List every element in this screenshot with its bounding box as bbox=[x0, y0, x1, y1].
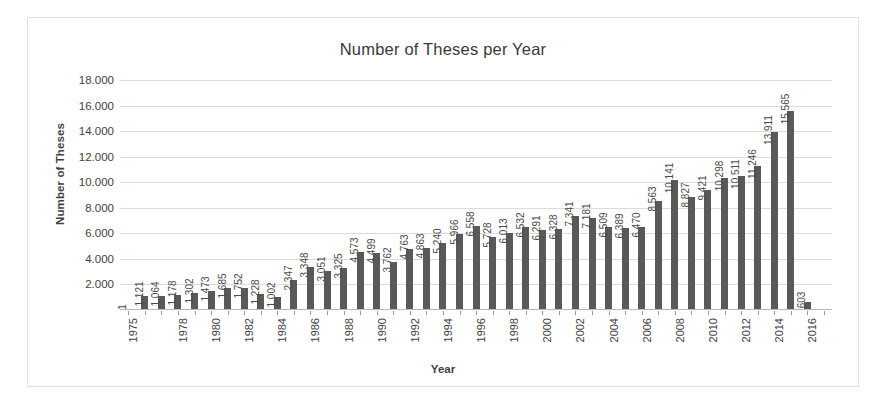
x-tick-slot bbox=[219, 311, 236, 357]
bar-value-label: 603 bbox=[797, 292, 807, 309]
bar[interactable]: 4.863 bbox=[423, 248, 430, 310]
chart-container: Number of Theses per Year Number of Thes… bbox=[27, 17, 859, 387]
bar[interactable]: 1.121 bbox=[141, 296, 148, 310]
bar-slot: 1.064 bbox=[153, 80, 170, 310]
bar-value-label: 1.228 bbox=[251, 280, 261, 305]
x-tick-mark bbox=[542, 311, 543, 315]
x-axis-title: Year bbox=[28, 363, 858, 375]
bar[interactable]: 6.291 bbox=[539, 230, 546, 310]
bar-value-label: 3.051 bbox=[317, 257, 327, 282]
x-tick-slot bbox=[551, 311, 568, 357]
bar-value-label: 1.473 bbox=[201, 277, 211, 302]
x-tick-mark bbox=[228, 311, 229, 315]
x-tick-mark bbox=[741, 311, 742, 315]
bar-value-label: 6.328 bbox=[549, 215, 559, 240]
bar-value-label: 6.013 bbox=[499, 219, 509, 244]
bar-slot: 6.328 bbox=[551, 80, 568, 310]
x-tick-mark bbox=[625, 311, 626, 315]
bar[interactable]: 3.325 bbox=[340, 268, 347, 310]
bar[interactable]: 3.348 bbox=[307, 267, 314, 310]
bar[interactable]: 1.064 bbox=[158, 296, 165, 310]
x-tick-slot bbox=[186, 311, 203, 357]
bar[interactable]: 4.763 bbox=[406, 249, 413, 310]
bar-slot: 10.298 bbox=[716, 80, 733, 310]
bar-slot: 3.325 bbox=[335, 80, 352, 310]
bar-slot: 15.565 bbox=[783, 80, 800, 310]
bar[interactable]: 6.558 bbox=[473, 226, 480, 310]
x-tick-mark bbox=[277, 311, 278, 315]
x-tick-mark bbox=[443, 311, 444, 315]
bar[interactable]: 10.141 bbox=[671, 180, 678, 310]
bar[interactable]: 1.178 bbox=[174, 295, 181, 310]
x-tick-mark bbox=[559, 311, 560, 315]
bar-value-label: 10.141 bbox=[665, 163, 675, 194]
x-tick-slot: 1975 bbox=[120, 311, 137, 357]
bar[interactable]: 1.228 bbox=[257, 294, 264, 310]
bar[interactable]: 2.347 bbox=[290, 280, 297, 310]
plot-area: 11.1211.0641.1781.3021.4731.6851.7521.22… bbox=[120, 80, 832, 310]
x-tick-slot: 2012 bbox=[733, 311, 750, 357]
bar[interactable]: 1.752 bbox=[241, 288, 248, 310]
x-tick-slot bbox=[518, 311, 535, 357]
bar-value-label: 5.728 bbox=[483, 222, 493, 247]
bar[interactable]: 6.389 bbox=[622, 228, 629, 310]
bar[interactable]: 6.328 bbox=[555, 229, 562, 310]
bar-value-label: 13.911 bbox=[764, 115, 774, 145]
bar[interactable]: 15.565 bbox=[787, 111, 794, 310]
bar[interactable]: 8.563 bbox=[655, 201, 662, 310]
bar-slot: 6.291 bbox=[534, 80, 551, 310]
bar[interactable]: 1.302 bbox=[191, 293, 198, 310]
x-tick-mark bbox=[642, 311, 643, 315]
bar[interactable]: 5.966 bbox=[456, 234, 463, 310]
bar[interactable]: 7.181 bbox=[589, 218, 596, 310]
bar[interactable]: 7.341 bbox=[572, 216, 579, 310]
bar[interactable]: 5.240 bbox=[439, 243, 446, 310]
bar[interactable]: 6.470 bbox=[638, 227, 645, 310]
x-tick-mark bbox=[310, 311, 311, 315]
bar[interactable]: 11.246 bbox=[754, 166, 761, 310]
bar-value-label: 6.389 bbox=[615, 214, 625, 239]
x-tick-mark bbox=[493, 311, 494, 315]
bar-value-label: 1.121 bbox=[135, 281, 145, 306]
bar[interactable]: 9.421 bbox=[704, 190, 711, 310]
bar[interactable]: 4.499 bbox=[373, 253, 380, 310]
x-tick-slot bbox=[253, 311, 270, 357]
x-tick-mark bbox=[575, 311, 576, 315]
bar[interactable]: 1.473 bbox=[208, 291, 215, 310]
bar[interactable]: 6.532 bbox=[522, 227, 529, 310]
bar-slot: 1.178 bbox=[170, 80, 187, 310]
bar[interactable]: 3.051 bbox=[324, 271, 331, 310]
bar-slot: 7.341 bbox=[567, 80, 584, 310]
bar-slot: 5.240 bbox=[435, 80, 452, 310]
bar[interactable]: 8.827 bbox=[688, 197, 695, 310]
x-tick-slot: 2000 bbox=[534, 311, 551, 357]
bar-value-label: 6.291 bbox=[532, 215, 542, 240]
bar[interactable]: 3.762 bbox=[390, 262, 397, 310]
x-tick-mark bbox=[145, 311, 146, 315]
y-axis-tick-label: 14.000 bbox=[46, 125, 114, 137]
x-tick-mark bbox=[509, 311, 510, 315]
x-tick-slot: 1984 bbox=[269, 311, 286, 357]
bar-value-label: 6.509 bbox=[599, 212, 609, 237]
bar[interactable]: 10.511 bbox=[738, 176, 745, 310]
bar[interactable]: 6.013 bbox=[506, 233, 513, 310]
bar-value-label: 1.685 bbox=[218, 274, 228, 299]
bar[interactable]: 4.573 bbox=[357, 252, 364, 310]
x-tick-mark bbox=[460, 311, 461, 315]
x-tick-slot bbox=[749, 311, 766, 357]
x-tick-mark bbox=[758, 311, 759, 315]
bar[interactable]: 13.911 bbox=[771, 132, 778, 310]
x-tick-slot bbox=[584, 311, 601, 357]
x-tick-mark bbox=[774, 311, 775, 315]
x-tick-slot bbox=[716, 311, 733, 357]
bar[interactable]: 5.728 bbox=[489, 237, 496, 310]
x-tick-slot bbox=[153, 311, 170, 357]
bar[interactable]: 10.298 bbox=[721, 178, 728, 310]
x-tick-slot: 2004 bbox=[600, 311, 617, 357]
x-tick-slot: 1992 bbox=[402, 311, 419, 357]
x-tick-slot bbox=[451, 311, 468, 357]
chart-title: Number of Theses per Year bbox=[28, 40, 858, 59]
bar[interactable]: 6.509 bbox=[605, 227, 612, 310]
x-tick-slot: 1988 bbox=[335, 311, 352, 357]
bar[interactable]: 1.685 bbox=[224, 288, 231, 310]
